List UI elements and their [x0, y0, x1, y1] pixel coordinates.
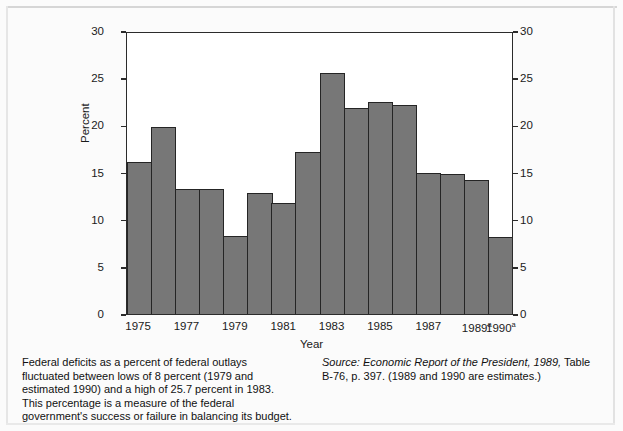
y-tick-label-left-10: 10	[64, 215, 104, 227]
x-tick-footnote-marker: a	[512, 320, 516, 329]
x-tick-label-1979: 1979	[222, 320, 248, 332]
y-tick-label-left-15: 15	[64, 168, 104, 180]
bar-1986	[392, 105, 417, 314]
bar-1988	[440, 174, 465, 314]
y-tick-label-right-10: 10	[520, 215, 560, 227]
bar-1983	[320, 73, 345, 314]
frame-edge-left	[6, 6, 8, 425]
x-tick-label-1981: 1981	[270, 320, 296, 332]
bar-series	[127, 33, 512, 314]
bar-1976	[151, 127, 176, 314]
x-tick-label-1985: 1985	[367, 320, 393, 332]
y-tick-label-left-5: 5	[64, 262, 104, 274]
y-tick-label-right-30: 30	[520, 26, 560, 38]
bar-1978	[199, 189, 224, 314]
plot-area	[126, 32, 513, 315]
bar-1981	[271, 203, 296, 314]
x-axis-label: Year	[0, 338, 623, 350]
caption-source: Source: Economic Report of the President…	[322, 356, 602, 383]
y-tick-mark-right-30	[513, 31, 518, 33]
y-tick-label-right-25: 25	[520, 73, 560, 85]
y-tick-mark-right-5	[513, 267, 518, 269]
bar-1990	[488, 237, 513, 314]
y-tick-mark-right-20	[513, 126, 518, 128]
y-tick-label-right-0: 0	[520, 309, 560, 321]
bar-1980	[247, 193, 272, 314]
bar-1977	[175, 189, 200, 315]
bar-1982	[295, 152, 320, 314]
bar-1984	[344, 108, 369, 314]
figure-container: Percent 005510101515202025253030 1975197…	[0, 0, 623, 431]
source-italic-text: Source: Economic Report of the President…	[322, 356, 561, 368]
y-tick-label-left-20: 20	[64, 120, 104, 132]
bar-1985	[368, 102, 393, 314]
x-tick-label-1975: 1975	[125, 320, 151, 332]
y-tick-label-right-15: 15	[520, 168, 560, 180]
y-tick-mark-right-0	[513, 314, 518, 316]
bar-1989	[464, 180, 489, 314]
y-tick-label-left-30: 30	[64, 26, 104, 38]
x-tick-label-1983: 1983	[319, 320, 345, 332]
y-tick-label-right-20: 20	[520, 120, 560, 132]
y-tick-label-left-0: 0	[64, 309, 104, 321]
x-tick-label-1990: 1990a	[486, 320, 516, 334]
x-tick-label-1987: 1987	[416, 320, 442, 332]
x-tick-label-1977: 1977	[174, 320, 200, 332]
y-tick-label-left-25: 25	[64, 73, 104, 85]
y-tick-mark-right-25	[513, 78, 518, 80]
plot-wrapper	[126, 32, 513, 315]
y-tick-label-right-5: 5	[520, 262, 560, 274]
y-tick-mark-right-15	[513, 173, 518, 175]
frame-edge-top	[6, 6, 617, 8]
y-tick-mark-right-10	[513, 220, 518, 222]
bar-1975	[127, 162, 152, 314]
bar-1979	[223, 236, 248, 314]
bar-1987	[416, 173, 441, 314]
caption-description: Federal deficits as a percent of federal…	[22, 356, 292, 424]
frame-edge-right	[613, 6, 615, 425]
